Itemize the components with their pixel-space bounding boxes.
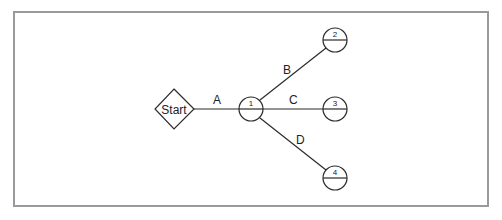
edge-label-d: D [296,133,305,147]
edge-d-line [260,118,326,170]
start-label: Start [161,103,187,117]
node-1: 1 [239,97,263,121]
network-diagram: A B C D Start 1 2 3 4 [0,0,502,220]
node-number: 4 [333,168,338,177]
node-number: 1 [249,99,254,108]
edge-label-c: C [289,93,298,107]
node-number: 3 [333,99,338,108]
node-3: 3 [323,97,347,121]
edge-label-a: A [213,93,221,107]
node-number: 2 [333,30,338,39]
start-node: Start [155,89,194,129]
edge-label-b: B [283,63,291,77]
node-2: 2 [323,28,347,52]
node-4: 4 [323,166,347,190]
